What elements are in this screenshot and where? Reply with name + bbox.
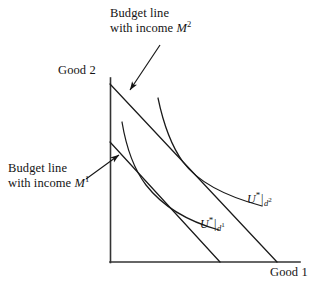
annotation-budget-m2-line2-prefix: with income <box>110 21 176 35</box>
annotation-budget-line-m2: Budget line with income M2 <box>110 6 191 36</box>
annotation-budget-m1-variable: M <box>74 176 85 190</box>
arrow-budget-m2 <box>130 45 160 90</box>
curve-label-d1-sub-superscript: 1 <box>221 222 225 230</box>
figure-canvas <box>0 0 335 291</box>
budget-line-m1 <box>110 142 220 262</box>
curve-label-d1-variable: U <box>200 217 209 231</box>
annotation-budget-m2-line1: Budget line <box>110 6 169 20</box>
x-axis-label: Good 1 <box>270 265 308 280</box>
curve-label-d2: U*|d2 <box>247 192 272 207</box>
curve-label-d2-subscript: d2 <box>264 198 272 208</box>
curve-label-d1: U*|d1 <box>200 217 225 232</box>
annotation-budget-m2-variable: M <box>176 21 187 35</box>
curve-label-d2-variable: U <box>247 192 256 206</box>
annotation-budget-m2-superscript: 2 <box>187 19 191 29</box>
annotation-budget-line-m1: Budget line with income M1 <box>8 161 89 191</box>
arrow-budget-m1 <box>86 155 119 179</box>
economics-figure: Budget line with income M2 Budget line w… <box>0 0 335 291</box>
curve-label-d1-subscript: d1 <box>217 223 225 233</box>
curve-label-d2-sub-superscript: 2 <box>268 197 272 205</box>
y-axis-label: Good 2 <box>58 63 96 78</box>
annotation-budget-m1-line1: Budget line <box>8 161 67 175</box>
annotation-budget-m1-superscript: 1 <box>85 174 89 184</box>
annotation-budget-m1-line2-prefix: with income <box>8 176 74 190</box>
